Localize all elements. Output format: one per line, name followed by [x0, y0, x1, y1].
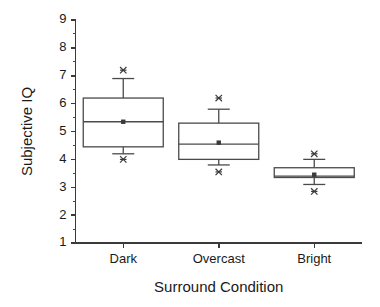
outlier-marker	[120, 67, 126, 73]
outlier-marker	[120, 156, 126, 162]
outlier-marker	[216, 95, 222, 101]
y-tick-label: 1	[59, 234, 66, 249]
outlier-marker	[311, 188, 317, 194]
outlier-marker	[216, 169, 222, 175]
x-axis-title: Surround Condition	[154, 278, 283, 295]
y-tick-label: 5	[59, 123, 66, 138]
y-tick-label: 6	[59, 95, 66, 110]
y-tick-label: 9	[59, 11, 66, 26]
mean-marker	[121, 120, 125, 124]
y-tick-label: 3	[59, 179, 66, 194]
x-tick-label-dark: Dark	[110, 251, 138, 266]
boxplot-figure: 123456789 DarkOvercastBright Surround Co…	[0, 0, 380, 307]
mean-marker	[312, 173, 316, 177]
box-bright	[274, 151, 354, 195]
y-axis-title: Subjective IQ	[18, 87, 35, 176]
y-tick-label: 7	[59, 67, 66, 82]
x-axis: DarkOvercastBright	[76, 243, 363, 266]
y-axis: 123456789	[59, 11, 75, 249]
outlier-marker	[311, 151, 317, 157]
box-overcast	[179, 95, 259, 175]
y-tick-label: 8	[59, 39, 66, 54]
chart-canvas: 123456789 DarkOvercastBright Surround Co…	[0, 0, 380, 307]
y-tick-label: 2	[59, 207, 66, 222]
box-plot-series	[83, 67, 354, 195]
box-dark	[83, 67, 163, 163]
y-tick-label: 4	[59, 151, 66, 166]
x-tick-label-bright: Bright	[297, 251, 331, 266]
x-tick-label-overcast: Overcast	[193, 251, 245, 266]
mean-marker	[217, 140, 221, 144]
